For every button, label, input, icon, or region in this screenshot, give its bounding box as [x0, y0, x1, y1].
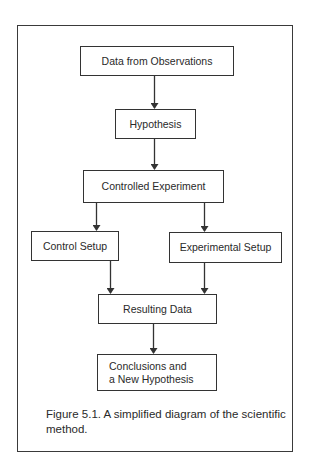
node-label: Resulting Data	[123, 303, 192, 316]
node-resulting-data: Resulting Data	[98, 294, 217, 324]
node-label: Controlled Experiment	[102, 180, 206, 193]
figure-caption: Figure 5.1. A simplified diagram of the …	[46, 407, 286, 437]
node-data-from-observations: Data from Observations	[80, 46, 234, 76]
node-label: Data from Observations	[102, 55, 213, 68]
node-conclusions: Conclusions and a New Hypothesis	[97, 354, 217, 391]
node-label: Control Setup	[43, 240, 107, 253]
node-control-setup: Control Setup	[31, 231, 119, 261]
node-label: Conclusions and a New Hypothesis	[109, 360, 194, 386]
node-controlled-experiment: Controlled Experiment	[83, 170, 224, 203]
node-experimental-setup: Experimental Setup	[169, 232, 282, 263]
node-label: Experimental Setup	[180, 241, 272, 254]
node-label: Hypothesis	[130, 118, 182, 131]
node-hypothesis: Hypothesis	[115, 109, 196, 139]
